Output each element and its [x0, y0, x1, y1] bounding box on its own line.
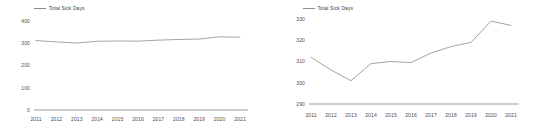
- x-axis-tick-label: 2011: [30, 116, 41, 122]
- x-axis-tick-label: 2015: [385, 112, 397, 118]
- y-axis-tick-label: 200: [21, 62, 30, 68]
- x-axis-tick-label: 2020: [214, 116, 226, 122]
- x-axis-tick-label: 2012: [51, 116, 63, 122]
- x-axis-tick-label: 2013: [345, 112, 357, 118]
- right-chart-plot: 3303203103002902011201220132014201520162…: [271, 0, 541, 131]
- y-axis-tick-label: 330: [296, 16, 305, 22]
- data-line-total-sick-days: [311, 21, 511, 81]
- x-axis-tick-label: 2013: [71, 116, 83, 122]
- y-axis-tick-label: 400: [21, 18, 30, 24]
- x-axis-tick-label: 2014: [91, 116, 103, 122]
- x-axis-tick-label: 2019: [193, 116, 205, 122]
- left-chart-panel: Total Sick Days 400300200100020112012201…: [0, 0, 271, 131]
- y-axis-tick-label: 0: [27, 107, 30, 113]
- y-axis-tick-label: 300: [21, 40, 30, 46]
- x-axis-tick-label: 2016: [405, 112, 417, 118]
- x-axis-tick-label: 2011: [305, 112, 316, 118]
- x-axis-tick-label: 2020: [485, 112, 497, 118]
- y-axis-tick-label: 290: [296, 101, 305, 107]
- y-axis-tick-label: 300: [296, 80, 305, 86]
- dual-line-chart-figure: Total Sick Days 400300200100020112012201…: [0, 0, 541, 131]
- y-axis-tick-label: 100: [21, 85, 30, 91]
- x-axis-tick-label: 2018: [445, 112, 457, 118]
- y-axis-tick-label: 320: [296, 37, 305, 43]
- x-axis-tick-label: 2012: [325, 112, 337, 118]
- x-axis-tick-label: 2014: [365, 112, 377, 118]
- x-axis-tick-label: 2019: [465, 112, 477, 118]
- x-axis-tick-label: 2017: [153, 116, 165, 122]
- y-axis-tick-label: 310: [296, 58, 305, 64]
- x-axis-tick-label: 2017: [425, 112, 437, 118]
- x-axis-tick-label: 2015: [112, 116, 124, 122]
- x-axis-tick-label: 2021: [234, 116, 246, 122]
- x-axis-tick-label: 2016: [132, 116, 144, 122]
- data-line-total-sick-days: [36, 37, 240, 43]
- left-chart-plot: 4003002001000201120122013201420152016201…: [0, 0, 271, 131]
- x-axis-tick-label: 2018: [173, 116, 185, 122]
- right-chart-panel: Total Sick Days 330320310300290201120122…: [271, 0, 541, 131]
- x-axis-tick-label: 2021: [505, 112, 517, 118]
